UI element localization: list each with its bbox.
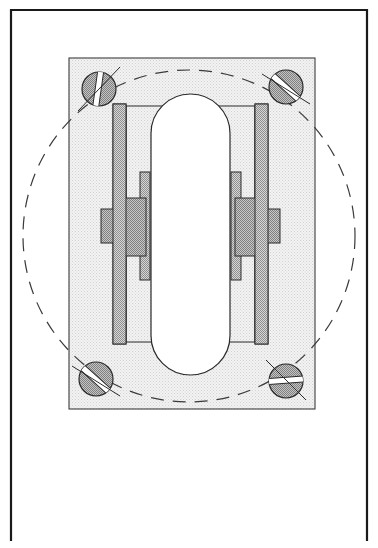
drawing-page <box>0 0 378 548</box>
axle-tab-right <box>267 209 280 243</box>
technical-drawing-figure <box>0 0 378 548</box>
bearing-block-right <box>235 198 257 256</box>
axle-tab-left <box>101 209 114 243</box>
roller-stadium-profile <box>151 94 230 375</box>
bearing-block-left <box>124 198 146 256</box>
